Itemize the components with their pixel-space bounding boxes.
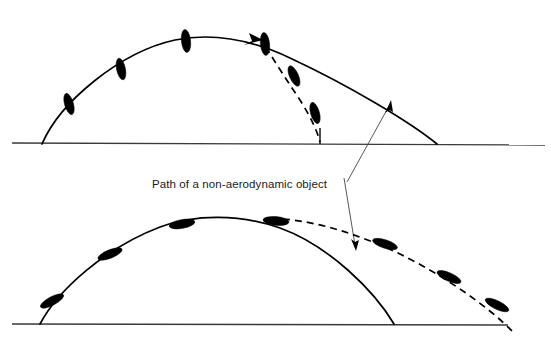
- upper-solid-trajectory: [42, 37, 437, 144]
- upper-ground-line: [12, 143, 545, 145]
- leader-lower-arrowhead: [351, 239, 359, 251]
- projectile-object: [263, 215, 290, 226]
- projectile-object: [180, 29, 192, 53]
- lower-ground-line: [12, 324, 508, 325]
- projectile-object: [62, 92, 77, 116]
- projectile-object: [483, 296, 510, 315]
- upper-panel-group: [12, 29, 545, 145]
- projectile-object: [435, 268, 462, 286]
- projectile-object: [39, 291, 66, 311]
- projectile-object: [308, 101, 323, 125]
- projectile-object: [371, 236, 398, 252]
- lower-object-markers: [39, 215, 511, 314]
- lower-panel-group: [12, 215, 513, 332]
- lower-dashed-trajectory: [283, 219, 513, 332]
- projectile-object: [168, 217, 195, 230]
- projectile-diagram-svg: Path of a non-aerodynamic object: [0, 0, 551, 338]
- projectile-object: [286, 64, 303, 88]
- projectile-object: [96, 245, 123, 263]
- projectile-object: [259, 32, 271, 56]
- upper-dashed-trajectory: [266, 47, 320, 142]
- projectile-object: [114, 57, 127, 80]
- lower-solid-trajectory: [40, 217, 394, 324]
- diagram-canvas: Path of a non-aerodynamic object: [0, 0, 551, 338]
- annotation-caption: Path of a non-aerodynamic object: [152, 178, 328, 190]
- annotation-leader-group: [344, 100, 393, 251]
